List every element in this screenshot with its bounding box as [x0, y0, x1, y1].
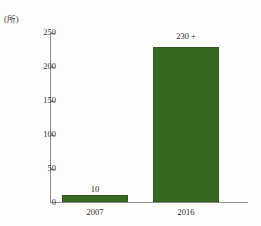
bar-2007 [62, 195, 128, 202]
y-tick-label-100: 100 [16, 130, 56, 139]
y-tick-label-150: 150 [16, 96, 56, 105]
x-tick-label-2016: 2016 [153, 207, 219, 217]
x-tick-label-2007: 2007 [62, 207, 128, 217]
plot-area: 250 200 150 100 50 0 10 2007 230 + 2016 [0, 0, 261, 226]
y-tick-label-250: 250 [16, 28, 56, 37]
y-tick-label-text: 200 [30, 62, 56, 71]
y-tick-label-0: 0 [16, 198, 56, 207]
bar-2016 [153, 47, 219, 202]
y-tick-label-text: 0 [30, 198, 56, 207]
y-tick-label-50: 50 [16, 164, 56, 173]
bar-chart: (所) 250 200 150 100 50 0 10 2007 [0, 0, 261, 226]
y-tick-label-200: 200 [16, 62, 56, 71]
bar-value-2007: 10 [62, 184, 128, 194]
x-axis-line [50, 202, 248, 203]
y-tick-label-text: 250 [30, 28, 56, 37]
bar-value-2016: 230 + [153, 31, 219, 41]
y-axis-line [50, 33, 51, 203]
y-tick-label-text: 100 [30, 130, 56, 139]
y-tick-label-text: 50 [30, 164, 56, 173]
y-tick-label-text: 150 [30, 96, 56, 105]
